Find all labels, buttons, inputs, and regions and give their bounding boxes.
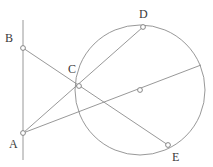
point-label-A: A: [9, 137, 18, 151]
point-marker-E: [166, 143, 171, 148]
point-label-E: E: [172, 150, 179, 164]
segment-A-to-D: [23, 27, 143, 133]
point-label-C: C: [68, 62, 76, 76]
point-marker-center: [138, 88, 143, 93]
point-marker-D: [141, 25, 146, 30]
segment-B-to-E: [23, 48, 168, 145]
point-label-B: B: [5, 31, 13, 45]
point-marker-C: [77, 84, 82, 89]
geometry-canvas: A B C D E: [0, 0, 213, 167]
point-marker-B: [21, 46, 26, 51]
geometry-diagram: A B C D E: [0, 0, 213, 167]
point-marker-A: [21, 131, 26, 136]
secant-A-through-center: [23, 65, 201, 133]
point-label-D: D: [139, 7, 148, 21]
